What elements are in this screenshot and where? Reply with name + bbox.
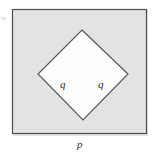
side-label-p-bottom: p: [77, 139, 83, 150]
geometry-figure: q q p: [0, 0, 159, 154]
scan-artifact-mark: [1, 17, 6, 20]
figure-canvas: [0, 0, 159, 154]
side-label-q-left: q: [60, 79, 66, 90]
side-label-q-right: q: [98, 79, 104, 90]
